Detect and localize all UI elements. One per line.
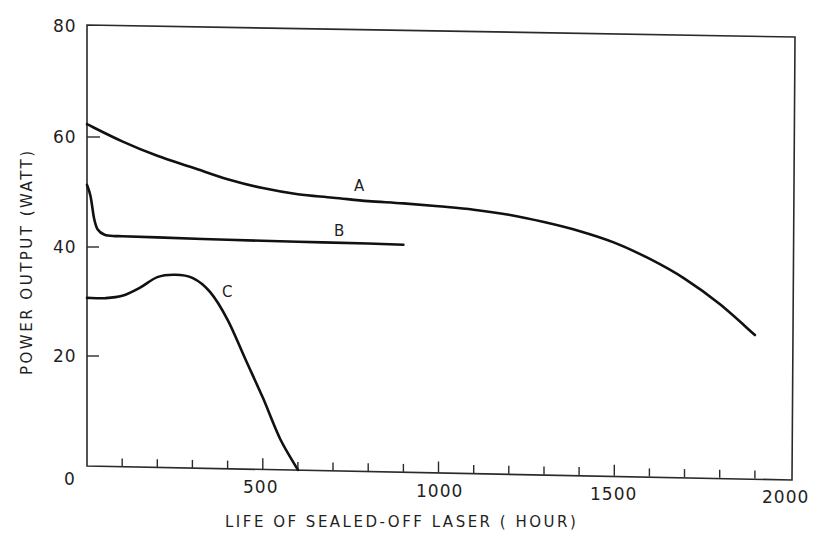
curve-c: [87, 275, 298, 470]
y-tick-label-40: 40: [53, 237, 77, 257]
x-tick-label-2000: 2000: [762, 487, 809, 507]
origin-label-0: 0: [64, 469, 76, 489]
y-tick-label-20: 20: [53, 346, 77, 366]
y-axis-title: POWER OUTPUT (WATT): [18, 148, 36, 375]
y-tick-label-80: 80: [53, 16, 77, 36]
x-tick-label-1000: 1000: [416, 481, 463, 501]
curve-label-a: A: [354, 177, 365, 195]
curve-label-b: B: [334, 222, 344, 240]
plot-frame: [87, 25, 795, 480]
x-axis-title: LIFE OF SEALED-OFF LASER ( HOUR): [225, 513, 578, 531]
curve-a: [87, 124, 755, 335]
x-tick-label-500: 500: [243, 477, 278, 497]
curve-label-c: C: [222, 283, 232, 301]
y-axis-ticks: [87, 137, 100, 356]
line-chart: 80 60 40 20 0 500 1000 1500 2000 POWER O…: [0, 0, 828, 550]
x-tick-label-1500: 1500: [590, 484, 637, 504]
y-tick-label-60: 60: [53, 127, 77, 147]
